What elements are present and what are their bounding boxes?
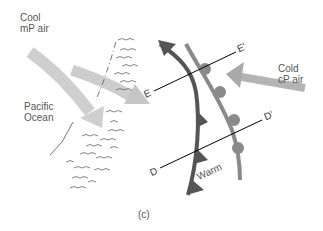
panel-label: (c)	[138, 209, 150, 220]
cool-air-label-line2: mP air	[20, 23, 49, 34]
cool-air-label-line1: Cool	[20, 12, 49, 23]
cold-cp-air-label: Cold cP air	[278, 63, 303, 85]
ocean-label-line1: Pacific	[24, 101, 53, 112]
pacific-ocean-label: Pacific Ocean	[24, 101, 53, 123]
cold-air-label-line2: cP air	[278, 74, 303, 85]
occluded-front-diagram: Cool mP air Pacific Ocean Cold cP air Wa…	[0, 0, 323, 231]
ocean-label-line2: Ocean	[24, 112, 53, 123]
cross-section-d	[160, 120, 262, 168]
cool-air-label: Cool mP air	[20, 12, 49, 34]
cold-air-label-line1: Cold	[278, 63, 303, 74]
